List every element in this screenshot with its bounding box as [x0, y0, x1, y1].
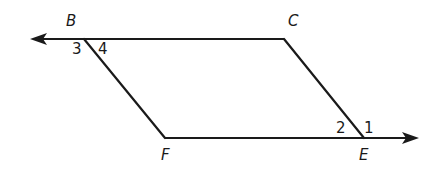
vertex-label-e: E: [359, 148, 368, 163]
segment-ce: [284, 39, 364, 138]
angle-label-2: 2: [336, 121, 346, 136]
angle-label-3: 3: [72, 42, 82, 57]
angle-label-1: 1: [364, 121, 374, 136]
vertex-label-f: F: [161, 148, 170, 163]
vertex-label-b: B: [66, 14, 76, 29]
vertex-label-c: C: [288, 14, 298, 29]
segment-bf: [84, 39, 165, 138]
angle-label-4: 4: [98, 42, 108, 57]
